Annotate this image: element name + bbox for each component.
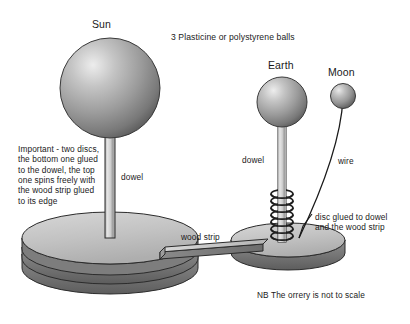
label-dowel-earth: dowel — [242, 155, 264, 165]
label-balls-note: 3 Plasticine or polystyrene balls — [171, 32, 295, 43]
moon-sphere — [331, 84, 356, 109]
sun-sphere — [60, 38, 160, 138]
label-sun: Sun — [92, 18, 111, 31]
label-scale-note: NB The orrery is not to scale — [257, 290, 365, 300]
label-wood-strip: wood strip — [181, 232, 220, 242]
label-wire: wire — [338, 156, 354, 166]
label-earth: Earth — [268, 59, 294, 72]
label-important-note: Important - two discs, the bottom one gl… — [18, 144, 99, 206]
label-moon: Moon — [328, 66, 355, 79]
earth-dowel-front — [278, 118, 286, 242]
label-disc-glued-note: disc glued to dowel and the wood strip — [315, 212, 387, 233]
label-dowel-sun: dowel — [121, 172, 143, 182]
earth-sphere — [257, 77, 307, 127]
orrery-diagram: Sun 3 Plasticine or polystyrene balls Ea… — [0, 0, 410, 324]
